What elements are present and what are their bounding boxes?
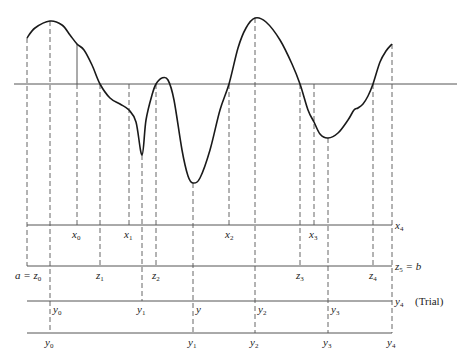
label-z2: z2 <box>152 270 160 283</box>
label-z1: z1 <box>96 270 104 283</box>
label-z4: z4 <box>369 270 377 283</box>
function-diagram <box>0 0 457 360</box>
label-trial-y4: y4 <box>395 296 403 309</box>
label-y4: y4 <box>387 337 395 350</box>
label-x1: x1 <box>124 229 132 242</box>
vertical-guide-lines <box>27 18 392 333</box>
label-y3: y3 <box>323 337 331 350</box>
label-z3: z3 <box>296 270 304 283</box>
label-y2: y2 <box>250 337 258 350</box>
label-a-equals-z0: a = z0 <box>15 270 41 283</box>
label-trial-y2: y2 <box>258 304 266 317</box>
label-x0: x0 <box>72 229 80 242</box>
label-trial-y1: y1 <box>137 304 145 317</box>
label-y1: y1 <box>188 337 196 350</box>
function-curve <box>27 18 392 183</box>
label-x2: x2 <box>225 229 233 242</box>
label-z5-equals-b: z5 = b <box>395 261 421 274</box>
label-y0: y0 <box>45 337 53 350</box>
label-x4: x4 <box>395 220 403 233</box>
label-trial-y3: y3 <box>331 304 339 317</box>
label-trial-y: y <box>196 304 201 315</box>
label-trial-y0: y0 <box>53 304 61 317</box>
label-trial-note: (Trial) <box>415 296 443 307</box>
label-x3: x3 <box>309 229 317 242</box>
